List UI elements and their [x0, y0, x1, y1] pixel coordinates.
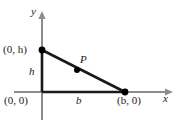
- point-P-label: P: [80, 54, 87, 65]
- point-0h-label: (0, h): [3, 44, 27, 55]
- y-axis-arrowhead: [38, 11, 45, 19]
- y-axis-label: y: [31, 6, 36, 17]
- origin-label: (0, 0): [4, 95, 28, 106]
- geometry-figure: (0, h) h (0, 0) b (b, 0) P y x: [0, 0, 177, 127]
- point-b0-label: (b, 0): [117, 95, 141, 106]
- point-0h-dot: [39, 47, 46, 54]
- base-label: b: [76, 95, 82, 106]
- x-axis-label: x: [163, 93, 168, 104]
- diagram-canvas: [0, 0, 177, 127]
- height-label: h: [29, 66, 35, 77]
- point-P-dot: [74, 67, 80, 73]
